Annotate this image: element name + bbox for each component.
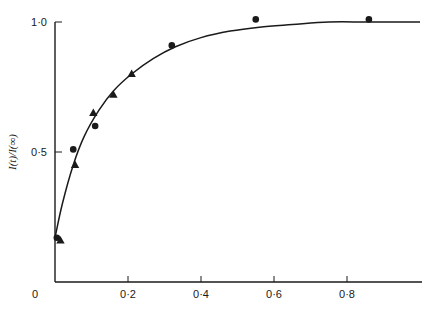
x-tick-label: 0·8 <box>339 288 355 300</box>
y-axis-label: I(t)/I(∞) <box>6 134 19 171</box>
triangle-marker <box>127 70 135 78</box>
tick-labels: 00·20·40·60·80·51·0 <box>31 16 355 300</box>
triangle-marker <box>89 109 97 117</box>
fitted-curve-path <box>55 22 420 238</box>
circle-marker <box>366 16 373 23</box>
y-tick-label: 0·5 <box>31 146 47 158</box>
triangle-marker <box>71 161 79 169</box>
circle-marker <box>169 42 176 49</box>
chart: 00·20·40·60·80·51·0 I(t)/I(∞) <box>0 0 440 320</box>
x-tick-label: 0·6 <box>266 288 282 300</box>
x-tick-label: 0·4 <box>193 288 209 300</box>
circle-marker <box>252 16 259 23</box>
circle-marker <box>92 123 99 130</box>
axes <box>55 22 422 282</box>
y-tick-label: 1·0 <box>31 16 47 28</box>
x-tick-label: 0·2 <box>120 288 136 300</box>
data-markers <box>54 16 373 243</box>
x-tick-label: 0 <box>32 288 38 300</box>
fitted-curve <box>55 22 420 238</box>
circle-marker <box>70 146 77 153</box>
